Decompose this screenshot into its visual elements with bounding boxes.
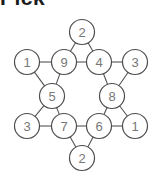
figure-canvas: Pick 219435837612 <box>0 0 157 178</box>
node-label: 1 <box>131 119 138 134</box>
node-label: 2 <box>78 151 85 166</box>
node-label: 8 <box>108 89 115 104</box>
graph-node[interactable]: 3 <box>15 114 40 139</box>
graph-edge <box>119 106 127 117</box>
node-label: 5 <box>48 89 55 104</box>
graph-edge <box>34 72 45 87</box>
graph-edge <box>119 72 129 86</box>
graph-edge <box>56 73 60 84</box>
node-label: 4 <box>95 55 102 70</box>
graph-edge <box>103 73 107 85</box>
graph-node[interactable]: 9 <box>52 50 77 75</box>
node-label: 3 <box>23 119 30 134</box>
graph-edge <box>35 105 45 117</box>
graph-node[interactable]: 4 <box>87 50 112 75</box>
node-label: 7 <box>60 119 67 134</box>
graph-edge <box>88 137 94 148</box>
graph-node[interactable]: 5 <box>40 84 65 109</box>
graph-edge <box>70 136 76 147</box>
graph-edge <box>88 42 93 51</box>
graph-edge <box>70 42 76 51</box>
graph-node[interactable]: 1 <box>15 50 40 75</box>
graph-node[interactable]: 3 <box>123 50 148 75</box>
node-label: 6 <box>95 119 102 134</box>
node-label: 2 <box>78 25 85 40</box>
node-label: 1 <box>23 55 30 70</box>
graph-node[interactable]: 2 <box>70 20 95 45</box>
graph-node[interactable]: 2 <box>70 146 95 171</box>
graph-edge <box>56 107 59 115</box>
graph-node[interactable]: 1 <box>123 114 148 139</box>
graph-node[interactable]: 6 <box>87 114 112 139</box>
graph-edge <box>104 107 107 115</box>
graph-nodes: 219435837612 <box>15 20 148 171</box>
node-label: 9 <box>60 55 67 70</box>
graph-node[interactable]: 8 <box>100 84 125 109</box>
node-label: 3 <box>131 55 138 70</box>
hexagram-graph: 219435837612 <box>0 0 157 178</box>
graph-node[interactable]: 7 <box>52 114 77 139</box>
